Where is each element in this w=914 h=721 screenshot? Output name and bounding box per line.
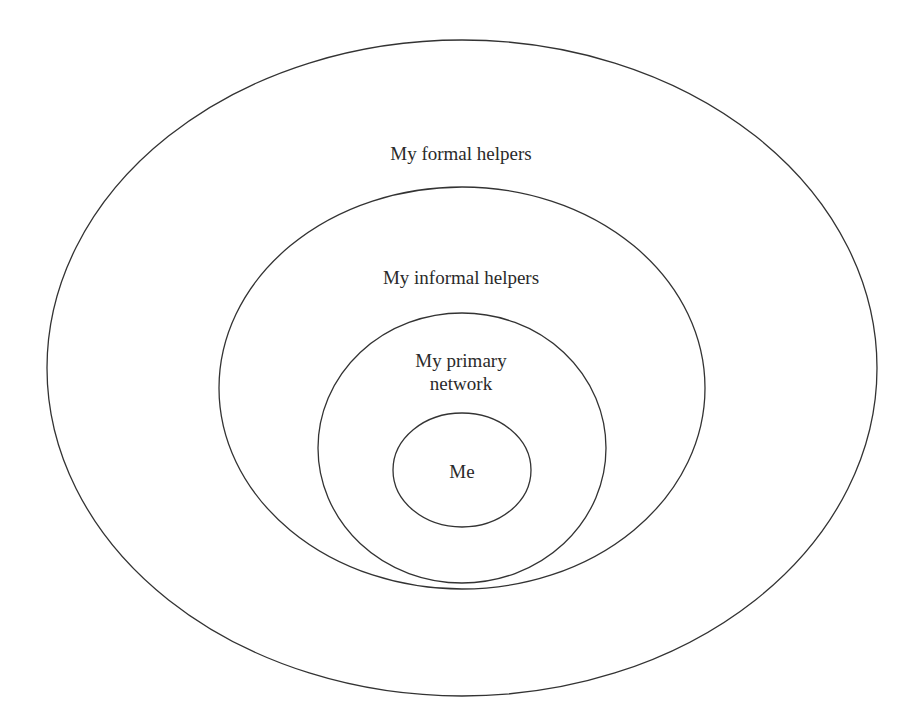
label-primary-network-line1: My primary <box>415 349 506 372</box>
label-informal-helpers: My informal helpers <box>383 266 539 289</box>
label-primary-network-line2: network <box>415 372 506 395</box>
label-formal-helpers: My formal helpers <box>390 142 531 165</box>
label-me: Me <box>449 460 474 483</box>
label-primary-network: My primary network <box>415 349 506 395</box>
